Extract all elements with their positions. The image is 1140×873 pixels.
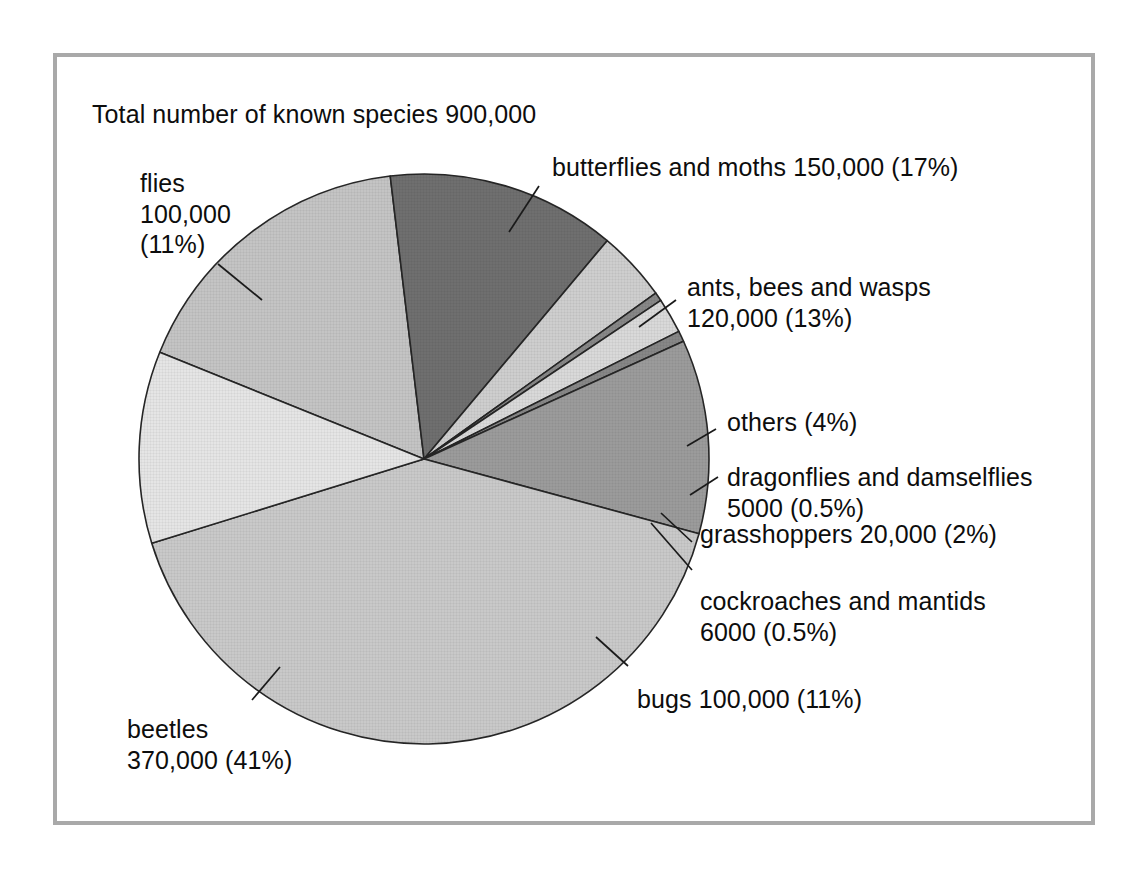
pie-chart-figure: Total number of known species 900,000 fl… bbox=[0, 0, 1140, 873]
slice-label-beetles: beetles 370,000 (41%) bbox=[127, 714, 292, 775]
slice-label-butterflies-line1: butterflies and moths 150,000 (17%) bbox=[552, 152, 959, 183]
slice-label-butterflies: butterflies and moths 150,000 (17%) bbox=[552, 152, 959, 183]
slice-label-flies-line2: 100,000 bbox=[140, 199, 231, 230]
slice-label-grasshoppers-line1: grasshoppers 20,000 (2%) bbox=[700, 519, 997, 550]
slice-label-dragonflies: dragonflies and damselflies 5000 (0.5%) bbox=[727, 462, 1033, 523]
slice-label-dragonflies-line1: dragonflies and damselflies bbox=[727, 462, 1033, 493]
slice-label-others-line1: others (4%) bbox=[727, 407, 857, 438]
slice-label-beetles-line2: 370,000 (41%) bbox=[127, 745, 292, 776]
slice-label-ants-line1: ants, bees and wasps bbox=[687, 272, 931, 303]
slice-label-cockroaches-line1: cockroaches and mantids bbox=[700, 586, 986, 617]
slice-label-cockroaches: cockroaches and mantids 6000 (0.5%) bbox=[700, 586, 986, 647]
slice-label-bugs: bugs 100,000 (11%) bbox=[637, 684, 862, 715]
slice-label-grasshoppers: grasshoppers 20,000 (2%) bbox=[700, 519, 997, 550]
slice-label-flies-line1: flies bbox=[140, 168, 231, 199]
slice-label-ants: ants, bees and wasps 120,000 (13%) bbox=[687, 272, 931, 333]
slice-label-ants-line2: 120,000 (13%) bbox=[687, 303, 931, 334]
slice-label-cockroaches-line2: 6000 (0.5%) bbox=[700, 617, 986, 648]
slice-label-bugs-line1: bugs 100,000 (11%) bbox=[637, 684, 862, 715]
slice-label-beetles-line1: beetles bbox=[127, 714, 292, 745]
slice-label-others: others (4%) bbox=[727, 407, 857, 438]
slice-label-flies-line3: (11%) bbox=[140, 229, 231, 260]
slice-label-flies: flies 100,000 (11%) bbox=[140, 168, 231, 260]
